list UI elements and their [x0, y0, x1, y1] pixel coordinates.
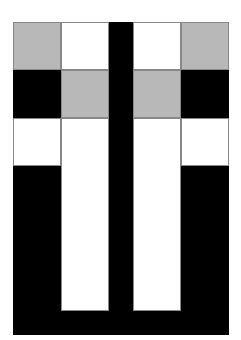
top-left-gray	[13, 22, 61, 70]
mid-right-black	[181, 70, 229, 118]
top-left-white	[61, 22, 109, 70]
mid-left-black	[13, 70, 61, 118]
mid-right-gray	[133, 70, 181, 118]
row3-right-white	[181, 118, 229, 166]
center-black-bar	[109, 22, 133, 335]
inner-right-white-column	[133, 118, 181, 311]
inner-left-white-column	[61, 118, 109, 311]
top-right-white	[133, 22, 181, 70]
row3-left-white	[13, 118, 61, 166]
mid-left-gray	[61, 70, 109, 118]
top-right-gray	[181, 22, 229, 70]
